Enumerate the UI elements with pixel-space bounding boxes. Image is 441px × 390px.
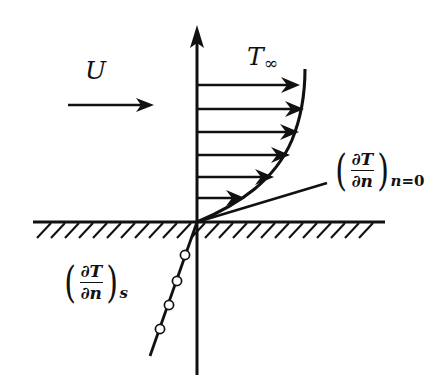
solid-gradient-marker [164,300,173,309]
paren-right-icon: ) [377,153,389,188]
vertical-axis [190,25,204,375]
paren-left-icon: ( [335,153,347,188]
solid-temperature-gradient-label: ( ∂T ∂n ) s [62,262,128,303]
wall-gradient-tangent-line [197,183,327,222]
paren-left-icon: ( [64,265,76,300]
velocity-profile-arrows [197,77,304,206]
profile-arrow-2 [197,101,304,117]
solid-gradient-marker [155,324,164,333]
solid-gradient-shaft [150,222,197,356]
solid-gradient-fraction: ∂T ∂n [78,262,104,303]
wall-hatching [37,223,373,238]
wall-gradient-subscript: n=0 [391,174,425,191]
freestream-temperature-symbol: T [247,42,264,71]
wall-gradient-numerator: ∂T [350,150,374,170]
solid-gradient-marker [180,250,189,259]
wall-gradient-denominator: ∂n [351,170,374,191]
thermal-boundary-layer-figure: U T∞ ( ∂T ∂n ) n=0 ( ∂T ∂n ) s [0,0,441,390]
solid-gradient-numerator: ∂T [79,262,103,282]
infinity-subscript: ∞ [264,53,278,73]
profile-arrow-6 [197,190,245,206]
solid-gradient-subscript: s [120,286,128,303]
solid-gradient-denominator: ∂n [80,282,103,303]
freestream-temperature-label: T∞ [247,44,278,72]
wall-temperature-gradient-label: ( ∂T ∂n ) n=0 [333,150,424,191]
freestream-velocity-label: U [85,58,106,83]
solid-gradient-expression: ( ∂T ∂n ) s [62,262,128,303]
freestream-velocity-arrow [68,98,154,112]
solid-gradient-line [150,222,197,356]
profile-arrow-3 [197,124,299,140]
profile-arrow-4 [197,147,290,163]
wall-surface [33,222,385,238]
paren-right-icon: ) [106,265,118,300]
profile-arrow-1 [197,77,300,93]
solid-gradient-marker [172,276,181,285]
wall-gradient-fraction: ∂T ∂n [349,150,375,191]
diagram-canvas [0,0,441,390]
wall-gradient-expression: ( ∂T ∂n ) n=0 [333,150,424,191]
